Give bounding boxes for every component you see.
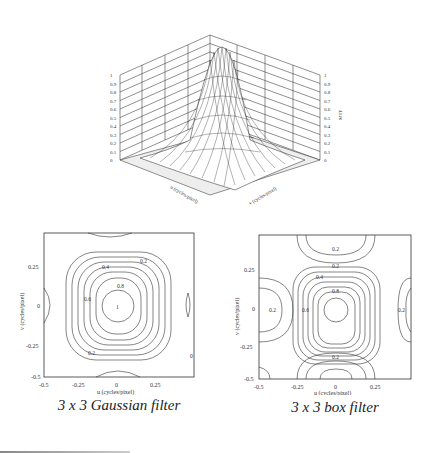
svg-text:0.7: 0.7 [110,99,117,104]
svg-text:-0.5: -0.5 [244,376,254,382]
svg-text:0.25: 0.25 [244,267,255,273]
caption-box-filter: 3 x 3 box filter [259,399,411,416]
svg-text:0.6: 0.6 [324,107,331,112]
svg-text:0.6: 0.6 [110,107,117,112]
svg-text:0.2: 0.2 [269,307,276,313]
svg-text:0.8: 0.8 [110,90,117,95]
y-axis-label: v (cycles/pixel) [19,293,26,330]
svg-text:0.9: 0.9 [324,82,331,87]
svg-text:0: 0 [115,382,118,388]
svg-text:0.5: 0.5 [324,116,331,121]
svg-text:0.25: 0.25 [370,384,381,390]
svg-text:-0.5: -0.5 [39,382,49,388]
svg-text:0.2: 0.2 [88,350,95,356]
svg-text:-0.25: -0.25 [240,344,253,350]
svg-text:1: 1 [324,73,327,78]
svg-text:1: 1 [116,304,119,310]
caption-gaussian: 3 x 3 Gaussian filter [44,397,194,414]
svg-text:0.5: 0.5 [110,116,117,121]
svg-text:0: 0 [252,306,255,312]
v-axis-label: v (cycles/pixel) [248,186,278,206]
svg-text:0.2: 0.2 [140,258,147,264]
svg-text:-0.5: -0.5 [31,374,41,380]
svg-text:1: 1 [110,73,113,78]
svg-text:0.3: 0.3 [324,133,331,138]
svg-text:0: 0 [190,353,193,359]
svg-text:0.25: 0.25 [150,382,161,388]
gaussian-contour-plot: 0.20.40.8 0.610.2 0 0.25 0 -0.25 -0.5 -0… [0,225,220,395]
svg-text:0.25: 0.25 [28,264,39,270]
svg-text:0.8: 0.8 [117,283,124,289]
svg-text:0: 0 [324,158,327,163]
svg-text:-0.25: -0.25 [72,382,85,388]
x-axis-label: u (cycles/pixel) [314,390,351,395]
svg-text:0: 0 [37,303,40,309]
svg-text:0.3: 0.3 [110,133,117,138]
box-filter-contour-plot: 0.20.20.4 0.80.60.2 0.20.2 0.25 0 -0.25 … [220,225,434,395]
svg-text:0.8: 0.8 [332,288,339,294]
svg-text:0.8: 0.8 [324,90,331,95]
mtf-3d-surface-plot: 10.90.8 0.70.60.5 0.40.30.2 0.10 10.90.8… [110,20,350,220]
svg-text:0.2: 0.2 [332,354,339,360]
svg-text:0.2: 0.2 [332,246,339,252]
svg-text:0.2: 0.2 [332,263,339,269]
svg-text:0.4: 0.4 [324,124,331,129]
y-axis-label: v (cycles/pixel) [234,298,241,335]
svg-text:0.2: 0.2 [110,141,117,146]
svg-text:0.4: 0.4 [110,124,117,129]
svg-text:0.6: 0.6 [302,307,309,313]
svg-text:-0.5: -0.5 [254,384,264,390]
svg-text:0.1: 0.1 [324,150,331,155]
svg-text:0.6: 0.6 [84,296,91,302]
svg-text:0.2: 0.2 [398,307,405,313]
svg-text:0.7: 0.7 [324,99,331,104]
svg-text:0.2: 0.2 [324,141,331,146]
svg-text:0.4: 0.4 [102,264,109,270]
svg-text:0.1: 0.1 [110,150,117,155]
x-axis-label: u (cycles/pixel) [97,389,134,395]
svg-text:-0.25: -0.25 [26,343,39,349]
svg-text:0.9: 0.9 [110,82,117,87]
z-axis-label-right: MTF [338,110,343,121]
svg-text:-0.25: -0.25 [291,384,304,390]
svg-text:0: 0 [110,158,113,163]
svg-text:0.4: 0.4 [316,274,323,280]
